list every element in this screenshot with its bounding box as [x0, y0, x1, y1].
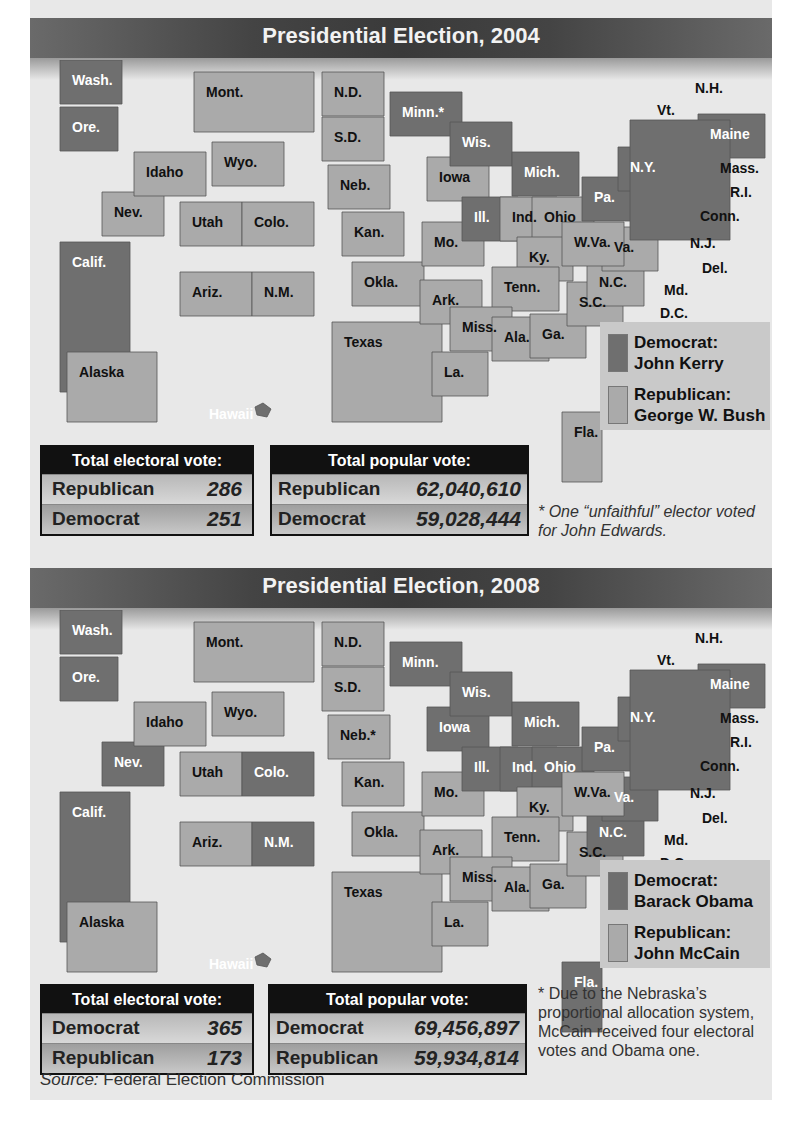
state-label: Md.: [664, 832, 688, 848]
democrat-swatch: [608, 334, 628, 372]
state-label: N.C.: [599, 824, 627, 840]
state-label: Alaska: [79, 364, 124, 380]
state-label: Minn.: [402, 654, 439, 670]
state-label: Wash.: [72, 622, 113, 638]
legend-republican-label: Republican: John McCain: [634, 922, 740, 964]
state-label: Va.: [614, 789, 634, 805]
state-label: Calif.: [72, 804, 106, 820]
state-label: Ind.: [512, 209, 537, 225]
republican-swatch: [608, 386, 628, 424]
electoral-vote-header: Total electoral vote:: [42, 986, 252, 1013]
state-label: R.I.: [730, 184, 752, 200]
state-label: Utah: [192, 764, 223, 780]
popular-vote-header: Total popular vote:: [272, 447, 527, 474]
popular-vote-header: Total popular vote:: [270, 986, 525, 1013]
legend-democrat-label: Democrat: Barack Obama: [634, 870, 753, 912]
footnote-2004: * One “unfaithful” elector voted for Joh…: [538, 502, 768, 540]
state-label: Colo.: [254, 764, 289, 780]
state-label: Ky.: [529, 249, 550, 265]
table-row: Republican 59,934,814: [270, 1043, 525, 1073]
legend-republican-label: Republican: George W. Bush: [634, 384, 765, 426]
state-label: La.: [444, 914, 464, 930]
state-label: Hawaii: [209, 956, 253, 972]
legend-democrat-label: Democrat: John Kerry: [634, 332, 724, 374]
us-map-2004: [30, 60, 772, 500]
vote-count: 59,934,814: [414, 1046, 519, 1070]
state-label: N.J.: [690, 785, 716, 801]
state-label: Vt.: [657, 652, 675, 668]
state-label: Ark.: [432, 292, 459, 308]
state-label: Mass.: [720, 710, 759, 726]
state-label: Nev.: [114, 754, 143, 770]
state-label: Del.: [702, 260, 728, 276]
state-label: Idaho: [146, 164, 183, 180]
state-label: Mo.: [434, 234, 458, 250]
election-2008-title: Presidential Election, 2008: [30, 568, 772, 608]
party-label: Republican: [276, 1047, 378, 1069]
state-label: Iowa: [439, 169, 470, 185]
state-label: Pa.: [594, 739, 615, 755]
map-legend-2004: Democrat: John Kerry Republican: George …: [600, 322, 770, 430]
state-label: Pa.: [594, 189, 615, 205]
state-label: Ohio: [544, 759, 576, 775]
state-label: S.C.: [579, 844, 606, 860]
state-label: Colo.: [254, 214, 289, 230]
table-row: Democrat 251: [42, 504, 252, 534]
state-label: Wyo.: [224, 154, 257, 170]
state-label: Minn.*: [402, 104, 444, 120]
footnote-2008: * Due to the Nebraska’s proportional all…: [538, 984, 770, 1060]
state-label: La.: [444, 364, 464, 380]
state-label: Ala.: [504, 879, 530, 895]
state-label: Ore.: [72, 119, 100, 135]
state-label: Nev.: [114, 204, 143, 220]
vote-count: 251: [207, 507, 242, 531]
vote-count: 173: [207, 1046, 242, 1070]
state-label: Mass.: [720, 160, 759, 176]
state-label: Ga.: [542, 326, 565, 342]
state-label: Ga.: [542, 876, 565, 892]
election-2008-panel: Presidential Election, 2008 Wash.Ore.Cal…: [30, 560, 772, 1100]
state-label: Ariz.: [192, 834, 222, 850]
state-label: Ala.: [504, 329, 530, 345]
election-2004-panel: Presidential Election, 2004 Wash.Ore.Cal…: [30, 0, 772, 560]
vote-count: 69,456,897: [414, 1016, 519, 1040]
state-label: Tenn.: [504, 829, 540, 845]
state-label: Texas: [344, 884, 383, 900]
state-label: Neb.*: [340, 727, 376, 743]
state-label: Hawaii: [209, 406, 253, 422]
party-label: Republican: [52, 478, 154, 500]
state-label: Mich.: [524, 714, 560, 730]
state-label: Okla.: [364, 824, 398, 840]
state-label: S.D.: [334, 679, 361, 695]
vote-count: 365: [207, 1016, 242, 1040]
state-label: Ill.: [474, 759, 490, 775]
state-label: Alaska: [79, 914, 124, 930]
vote-count: 59,028,444: [416, 507, 521, 531]
state-label: Wyo.: [224, 704, 257, 720]
map-legend-2008: Democrat: Barack Obama Republican: John …: [600, 860, 770, 968]
state-label: Kan.: [354, 224, 384, 240]
state-label: S.D.: [334, 129, 361, 145]
vote-count: 286: [207, 477, 242, 501]
state-label: Wis.: [462, 684, 491, 700]
party-label: Democrat: [52, 1017, 140, 1039]
state-label: S.C.: [579, 294, 606, 310]
state-label: N.H.: [695, 80, 723, 96]
state-label: Idaho: [146, 714, 183, 730]
table-row: Republican 62,040,610: [272, 474, 527, 504]
state-label: Miss.: [462, 319, 497, 335]
table-row: Democrat 69,456,897: [270, 1013, 525, 1043]
state-label: D.C.: [660, 305, 688, 321]
state-label: Neb.: [340, 177, 370, 193]
table-row: Democrat 365: [42, 1013, 252, 1043]
electoral-vote-table-2008: Total electoral vote: Democrat 365 Repub…: [40, 984, 254, 1075]
state-label: Conn.: [700, 208, 740, 224]
state-label: Fla.: [574, 424, 598, 440]
state-label: Miss.: [462, 869, 497, 885]
state-label: N.M.: [264, 834, 294, 850]
party-label: Republican: [278, 478, 380, 500]
state-label: Ariz.: [192, 284, 222, 300]
republican-swatch: [608, 924, 628, 962]
election-2004-title: Presidential Election, 2004: [30, 18, 772, 58]
state-label: Wash.: [72, 72, 113, 88]
